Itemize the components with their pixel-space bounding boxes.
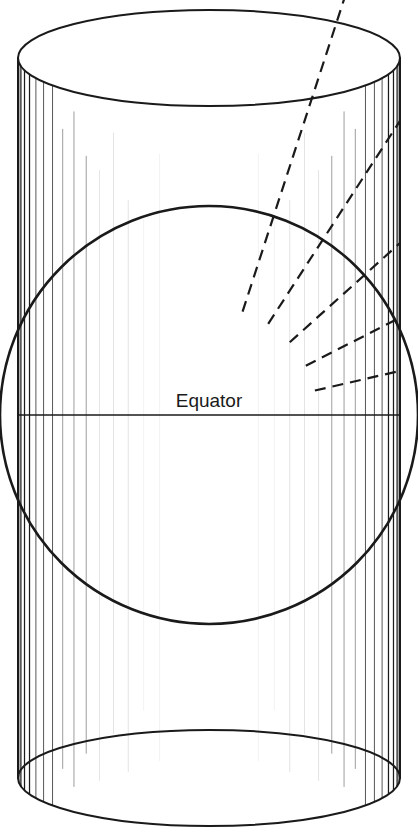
projection-diagram: Equator — [0, 0, 418, 834]
diagram-canvas: Equator — [0, 0, 418, 834]
equator-label: Equator — [176, 390, 243, 411]
